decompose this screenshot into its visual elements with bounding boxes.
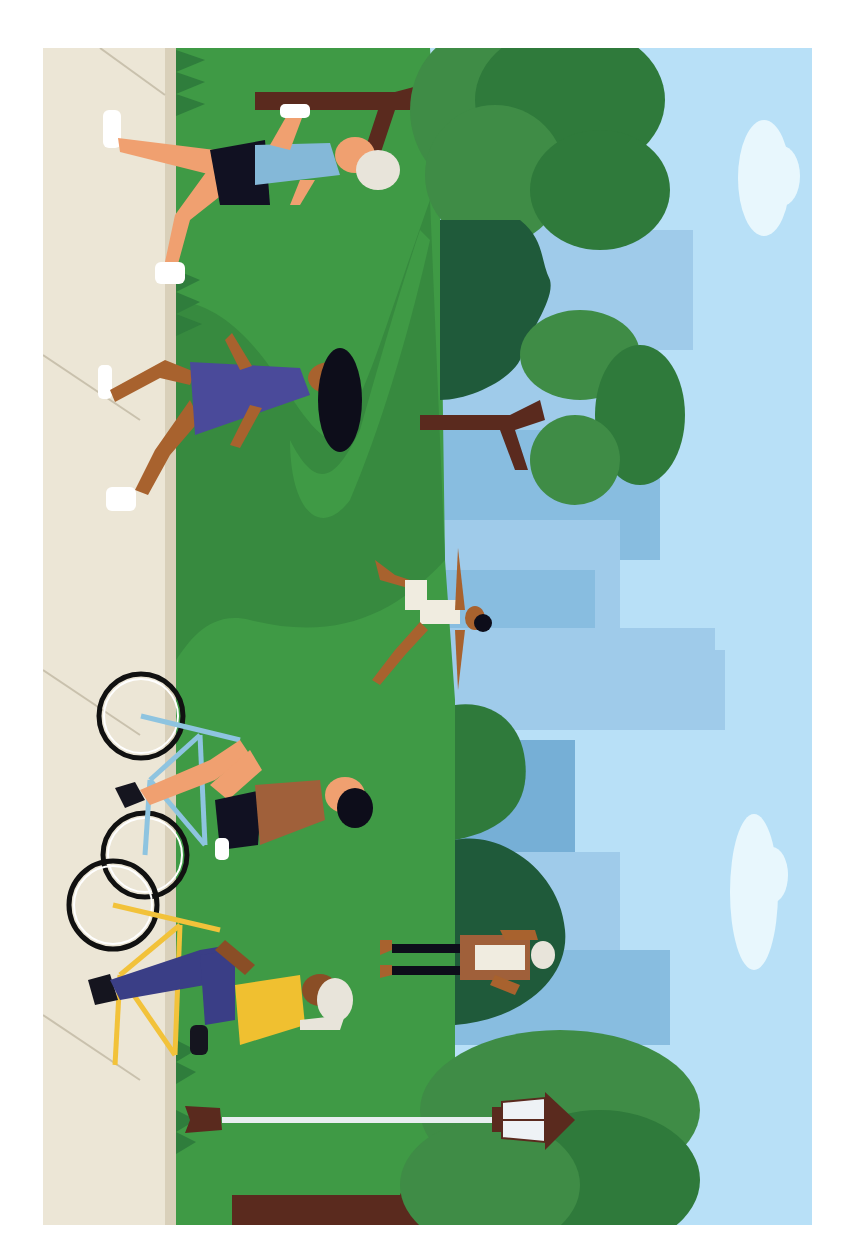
sidewalk [43, 48, 167, 1225]
park-illustration [0, 0, 851, 1258]
